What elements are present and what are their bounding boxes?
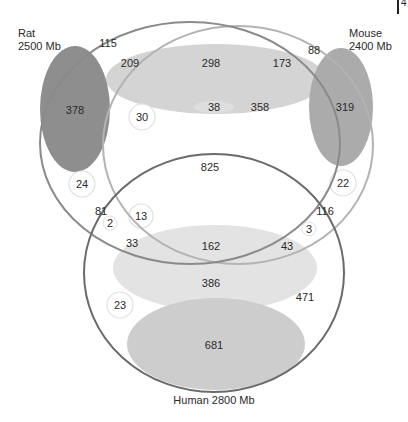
mouse-size-label: 2400 Mb: [349, 40, 392, 52]
venn-diagram: Rat 2500 Mb Mouse 2400 Mb Human 2800 Mb …: [0, 0, 408, 422]
region-13: 13: [135, 210, 147, 222]
region-386: 386: [202, 277, 220, 289]
region-43: 43: [281, 240, 293, 252]
region-88: 88: [308, 44, 320, 56]
region-30: 30: [136, 111, 148, 123]
region-115: 115: [99, 37, 117, 49]
region-681: 681: [205, 339, 223, 351]
region-33: 33: [126, 237, 138, 249]
region-162: 162: [202, 240, 220, 252]
mouse-label: Mouse: [349, 27, 382, 39]
region-209: 209: [121, 57, 139, 69]
region-81: 81: [95, 205, 107, 217]
region-825: 825: [201, 161, 219, 173]
rat-size-label: 2500 Mb: [18, 40, 61, 52]
region-3: 3: [306, 223, 312, 235]
region-319: 319: [336, 101, 354, 113]
region-358: 358: [251, 101, 269, 113]
region-378: 378: [66, 104, 84, 116]
region-24: 24: [76, 178, 88, 190]
corner-fragment-text: 4: [401, 0, 407, 8]
human-label: Human 2800 Mb: [173, 394, 254, 406]
region-38: 38: [208, 101, 220, 113]
region-116: 116: [316, 205, 334, 217]
region-2: 2: [107, 217, 113, 229]
region-298: 298: [202, 57, 220, 69]
region-471: 471: [296, 291, 314, 303]
corner-divider: [397, 0, 399, 14]
region-23: 23: [114, 299, 126, 311]
rat-label: Rat: [18, 27, 35, 39]
region-22: 22: [337, 177, 349, 189]
region-173: 173: [273, 57, 291, 69]
